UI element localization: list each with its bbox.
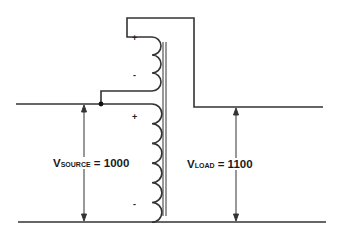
lower-minus-sign: -: [133, 199, 136, 209]
upper-plus-sign: +: [132, 33, 137, 43]
source-label-prefix: V: [53, 157, 61, 169]
lower-plus-sign: +: [132, 112, 137, 122]
load-label-subscript: LOAD: [195, 162, 215, 169]
upper-winding: [152, 37, 161, 91]
load-label-prefix: V: [187, 158, 195, 170]
upper-minus-sign: -: [133, 70, 136, 80]
source-label-value: = 1000: [91, 157, 130, 169]
load-voltage-label: VLOAD = 1100: [186, 158, 254, 170]
load-label-value: = 1100: [215, 158, 253, 170]
tap-wire: [101, 91, 152, 104]
source-voltage-label: VSOURCE = 1000: [52, 157, 130, 169]
load-wire: [127, 18, 323, 107]
lower-winding: [152, 104, 162, 222]
source-label-subscript: SOURCE: [61, 161, 91, 168]
junction-dot: [99, 102, 104, 107]
circuit-diagram: [0, 0, 341, 234]
